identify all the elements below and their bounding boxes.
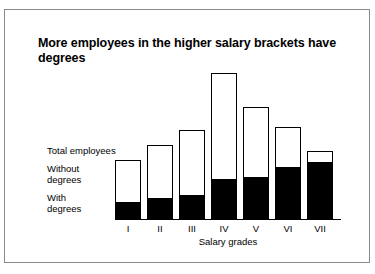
x-axis-title: Salary grades (115, 236, 341, 247)
bar-segment-with-degrees[interactable] (212, 179, 236, 218)
x-axis-tick-label: III (179, 223, 205, 234)
bar-segment-with-degrees[interactable] (116, 202, 140, 218)
legend-label-total-employees: Total employees (47, 145, 116, 156)
plot-area (115, 60, 341, 220)
bar-slot (243, 107, 269, 219)
bar-total-employees[interactable] (275, 127, 301, 219)
legend-label-without-degrees: Without degrees (47, 163, 81, 185)
x-axis-tick-label: VI (275, 223, 301, 234)
bar-total-employees[interactable] (307, 151, 333, 219)
bar-total-employees[interactable] (115, 160, 141, 219)
bar-slot (179, 130, 205, 219)
bar-slot (211, 73, 237, 219)
bar-slot (147, 145, 173, 219)
bar-segment-with-degrees[interactable] (308, 162, 332, 218)
legend-label-with-degrees: With degrees (47, 192, 81, 214)
bar-slot (115, 160, 141, 219)
bar-segment-with-degrees[interactable] (180, 195, 204, 218)
x-axis-tick-label: II (147, 223, 173, 234)
bar-group (115, 61, 341, 219)
chart-figure: More employees in the higher salary brac… (0, 0, 375, 274)
legend-label-without-degrees-line1: Without (47, 163, 81, 174)
x-axis-tick-label: IV (211, 223, 237, 234)
bar-total-employees[interactable] (179, 130, 205, 219)
bar-segment-with-degrees[interactable] (244, 177, 268, 218)
x-axis-tick-labels: IIIIIIIVVVIVII (115, 223, 341, 234)
x-axis-tick-label: I (115, 223, 141, 234)
x-axis-tick-label: VII (307, 223, 333, 234)
legend-label-without-degrees-line2: degrees (47, 174, 81, 185)
bar-total-employees[interactable] (243, 107, 269, 219)
x-axis-tick-label: V (243, 223, 269, 234)
bar-segment-with-degrees[interactable] (148, 198, 172, 218)
legend-label-with-degrees-line1: With (47, 192, 81, 203)
x-axis-line (115, 219, 341, 221)
legend-label-with-degrees-line2: degrees (47, 203, 81, 214)
bar-slot (275, 127, 301, 219)
bar-total-employees[interactable] (147, 145, 173, 219)
bar-slot (307, 151, 333, 219)
bar-segment-with-degrees[interactable] (276, 167, 300, 218)
bar-total-employees[interactable] (211, 73, 237, 219)
